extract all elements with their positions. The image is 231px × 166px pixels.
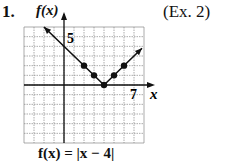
function-equation: f(x) = |x − 4| [38,145,114,162]
x-axis-label: x [149,86,158,102]
graph: 5 7 x [0,0,231,166]
x-tick-7: 7 [130,87,137,102]
y-tick-5: 5 [67,31,74,46]
